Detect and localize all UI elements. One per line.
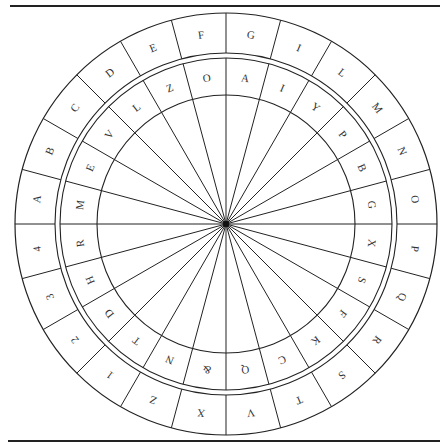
outer-ring-label: B (43, 145, 57, 156)
outer-ring-label: V (246, 407, 255, 420)
spoke-line (162, 112, 227, 224)
inner-divider (317, 107, 343, 133)
outer-ring-label: F (197, 28, 205, 41)
spoke-line (226, 191, 351, 224)
spoke-line (193, 224, 226, 349)
outer-ring-label: G (246, 28, 255, 41)
outer-ring-label: S (336, 369, 348, 382)
outer-ring-label: O (409, 194, 422, 203)
center-hub (223, 221, 229, 227)
outer-ring-label: Z (147, 394, 158, 408)
inner-divider (82, 141, 114, 160)
spoke-line (135, 133, 226, 224)
cipher-wheel: GILMNOPQRSTVXZ1234ABCDEF AIYPBGXSFKCQ&NT… (0, 0, 448, 446)
inner-ring-label: I (278, 81, 286, 94)
outer-divider (171, 389, 181, 428)
outer-divider (121, 41, 141, 76)
spoke-line (114, 224, 226, 289)
inner-ring-label: N (164, 353, 176, 367)
inner-ring-label: Y (309, 100, 323, 114)
inner-divider (109, 315, 135, 341)
spoke-line (226, 224, 259, 349)
inner-ring-label: C (277, 353, 288, 367)
outer-divider (22, 268, 61, 278)
spoke-line (226, 224, 291, 336)
spoke-line (226, 133, 317, 224)
outer-divider (270, 389, 280, 428)
spoke-line (226, 99, 259, 224)
inner-divider (259, 64, 269, 100)
inner-ring-label: L (130, 100, 143, 114)
outer-ring-label: R (370, 334, 384, 348)
spoke-line (101, 191, 226, 224)
outer-ring-label: 4 (30, 245, 43, 253)
spoke-line (226, 224, 317, 315)
inner-divider (317, 315, 343, 341)
inner-ring-label: R (73, 238, 86, 247)
inner-divider (291, 80, 310, 112)
inner-ring-label: A (241, 71, 250, 84)
inner-divider (291, 336, 310, 368)
inner-ring-label: K (309, 334, 323, 348)
inner-divider (143, 80, 162, 112)
inner-ring-label: D (102, 307, 116, 321)
outer-ring-label: E (148, 41, 159, 55)
inner-divider (351, 181, 387, 191)
inner-ring-label: H (83, 274, 97, 286)
outer-divider (77, 345, 105, 373)
inner-divider (66, 181, 102, 191)
outer-divider (270, 20, 280, 59)
inner-ring-label: T (130, 334, 143, 348)
outer-divider (347, 345, 375, 373)
outer-ring-label: 1 (104, 369, 116, 382)
outer-ring-label: C (67, 101, 81, 114)
inner-divider (338, 141, 370, 160)
inner-divider (259, 349, 269, 385)
outer-ring-label: 3 (43, 292, 56, 302)
spoke-line (226, 112, 291, 224)
spoke-line (226, 160, 338, 225)
outer-divider (43, 310, 78, 330)
outer-divider (391, 169, 430, 179)
outer-divider (43, 119, 78, 139)
outer-ring-label: X (196, 407, 205, 420)
inner-divider (143, 336, 162, 368)
inner-ring-label: M (73, 199, 86, 210)
outer-divider (121, 372, 141, 407)
inner-divider (351, 257, 387, 267)
outer-ring-label: L (336, 66, 349, 80)
spoke-line (101, 224, 226, 257)
outer-ring-label: 2 (68, 334, 81, 346)
outer-divider (22, 169, 61, 179)
outer-divider (347, 75, 375, 103)
inner-divider (183, 349, 193, 385)
spoke-line (162, 224, 227, 336)
inner-ring-label: & (201, 364, 211, 377)
outer-ring-label: A (30, 194, 43, 203)
inner-ring-label: X (366, 239, 379, 248)
inner-ring-label: B (355, 162, 369, 173)
outer-ring-label: P (409, 245, 422, 253)
inner-ring-label: S (356, 275, 369, 285)
spokes (97, 95, 355, 353)
inner-divider (338, 289, 370, 308)
outer-ring-label: Q (395, 291, 409, 303)
outer-divider (312, 41, 332, 76)
outer-divider (312, 372, 332, 407)
inner-ring-label: Q (240, 364, 249, 377)
inner-divider (109, 107, 135, 133)
outer-divider (171, 20, 181, 59)
inner-divider (82, 289, 114, 308)
inner-divider (66, 257, 102, 267)
inner-ring-label: V (102, 127, 116, 141)
outer-ring-label: N (395, 145, 409, 157)
inner-ring-label: Z (164, 81, 175, 95)
outer-ring-label: T (293, 394, 304, 408)
outer-divider (391, 268, 430, 278)
outer-divider (374, 119, 409, 139)
inner-divider (183, 64, 193, 100)
spoke-line (135, 224, 226, 315)
inner-ring-label: G (366, 200, 379, 209)
inner-ring-label: F (336, 308, 349, 320)
outer-ring-label: I (295, 41, 303, 54)
